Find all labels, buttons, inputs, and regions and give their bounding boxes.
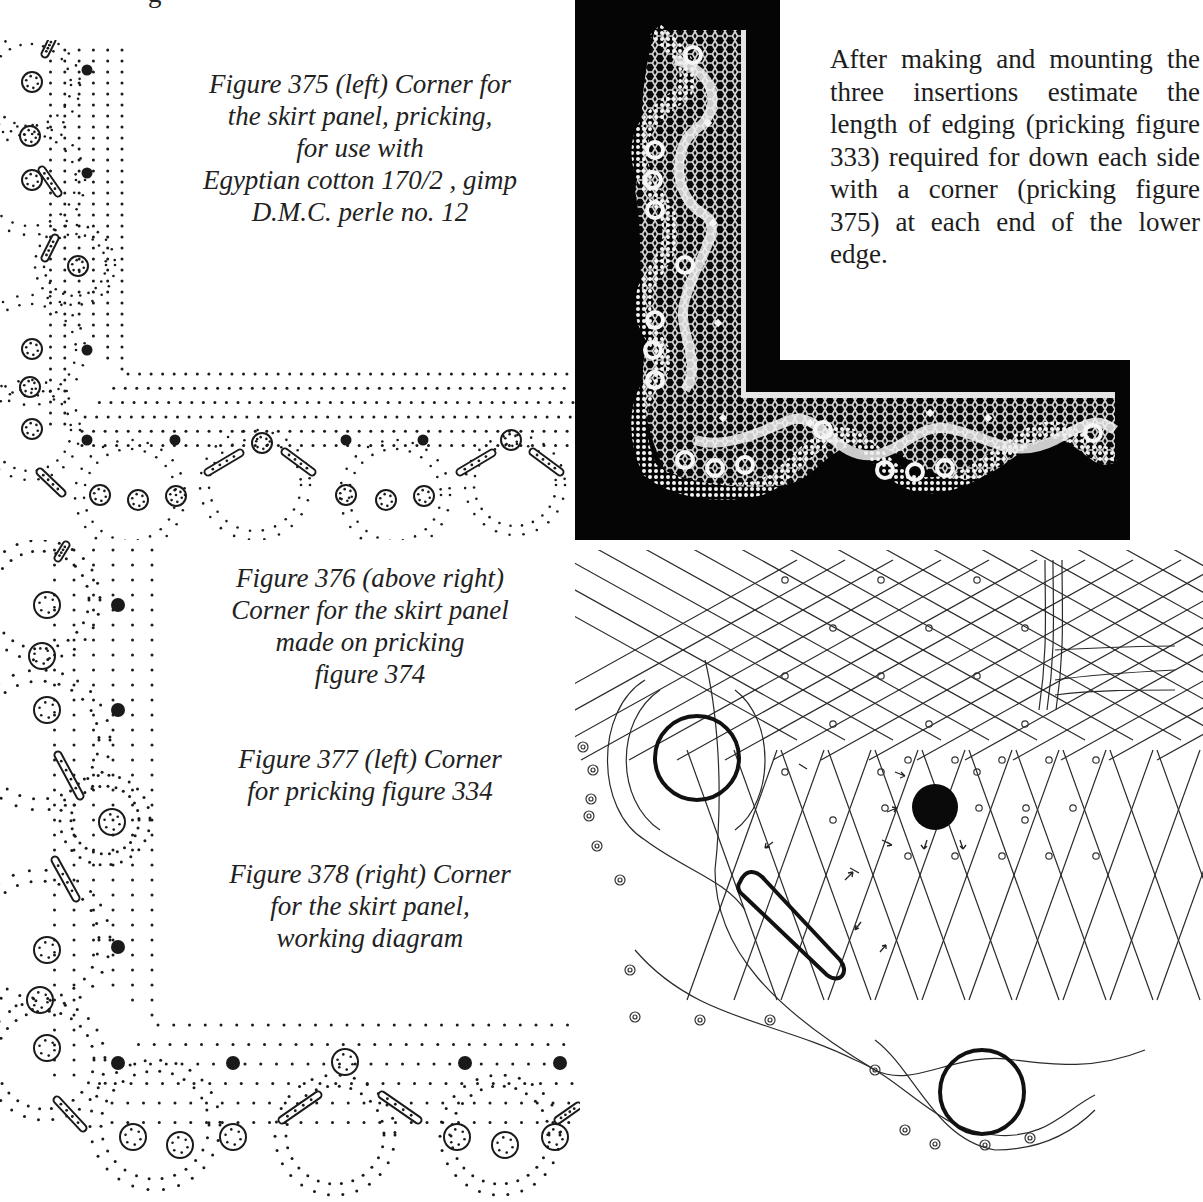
caption-line: made on pricking [180,626,560,658]
caption-line: Corner for the skirt panel [180,594,560,626]
caption-line: Figure 375 (left) Corner for [140,68,580,100]
caption-line: Figure 378 (right) Corner [180,858,560,890]
caption-figure-377: Figure 377 (left) Corner for pricking fi… [180,743,560,807]
gimp-ring-bottom [940,1050,1024,1134]
caption-line: Figure 376 (above right) [180,562,560,594]
caption-line: the skirt panel, pricking, [140,100,580,132]
caption-line: Egyptian cotton 170/2 , gimp [140,164,580,196]
gimp-ring-left [655,716,739,800]
gimp-bar [738,872,844,979]
caption-line: working diagram [180,922,560,954]
body-paragraph: After making and mounting the three inse… [830,43,1200,271]
caption-line: Figure 377 (left) Corner [180,743,560,775]
caption-line: D.M.C. perle no. 12 [140,196,580,228]
caption-line: for use with [140,132,580,164]
tally-spot [912,784,958,830]
caption-figure-375: Figure 375 (left) Corner for the skirt p… [140,68,580,228]
caption-figure-378: Figure 378 (right) Corner for the skirt … [180,858,560,954]
top-text-fragment: g [148,0,162,9]
caption-line: figure 374 [180,658,560,690]
caption-figure-376: Figure 376 (above right) Corner for the … [180,562,560,690]
caption-line: for pricking figure 334 [180,775,560,807]
figure-378-working-diagram [575,550,1203,1202]
caption-line: for the skirt panel, [180,890,560,922]
